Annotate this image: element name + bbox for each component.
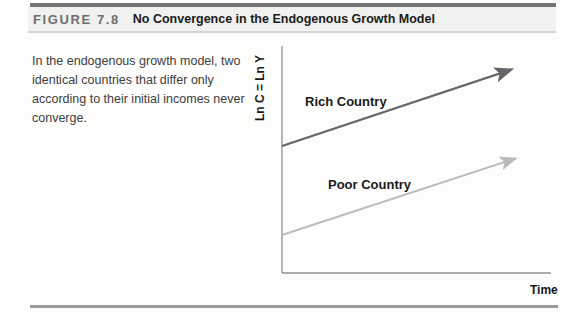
poor-country-line (282, 159, 514, 235)
figure-title: No Convergence in the Endogenous Growth … (133, 12, 435, 26)
x-axis-label: Time (530, 283, 558, 297)
textbook-figure-page: FIGURE 7.8 No Convergence in the Endogen… (0, 0, 581, 317)
figure-header: FIGURE 7.8 No Convergence in the Endogen… (28, 7, 556, 33)
y-axis-label: Ln C = Ln Y (253, 55, 267, 121)
poor-country-label: Poor Country (328, 177, 412, 192)
growth-chart: Rich Country Poor Country Ln C = Ln Y Ti… (248, 42, 578, 304)
figure-caption: In the endogenous growth model, two iden… (32, 52, 254, 128)
figure-number-label: FIGURE 7.8 (33, 12, 120, 27)
rich-country-label: Rich Country (305, 94, 387, 109)
bottom-rule (30, 305, 558, 308)
